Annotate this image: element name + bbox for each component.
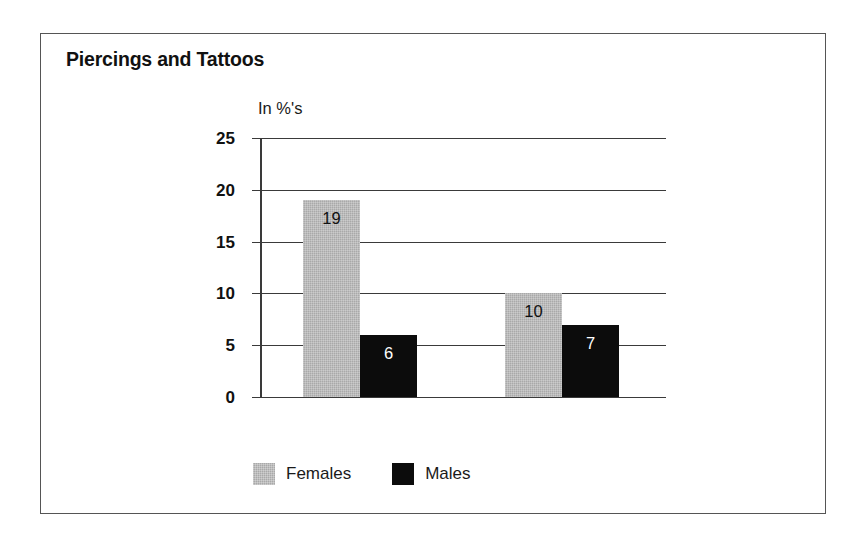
tick-mark-10: 10 — [252, 293, 260, 294]
legend-swatch-males-icon — [392, 463, 414, 485]
legend-item-females[interactable]: Females — [253, 463, 351, 485]
y-axis-unit-caption: In %'s — [258, 99, 302, 118]
gridline-20 — [260, 190, 666, 191]
y-tick-label-25: 25 — [216, 129, 235, 149]
page-title: Piercings and Tattoos — [66, 48, 264, 71]
bar-tattoos-males[interactable]: 7 — [562, 325, 619, 398]
gridline-25 — [260, 138, 666, 139]
tick-mark-5: 5 — [252, 345, 260, 346]
y-tick-label-5: 5 — [226, 336, 235, 356]
plot-area: 25 20 15 10 5 0 19 6 10 — [260, 138, 666, 397]
chart-figure: Piercings and Tattoos In %'s 25 20 15 10… — [0, 0, 861, 545]
legend-label-females: Females — [286, 464, 351, 484]
legend-item-males[interactable]: Males — [392, 463, 470, 485]
bar-value-tattoos-females: 10 — [505, 302, 562, 321]
tick-mark-15: 15 — [252, 242, 260, 243]
bar-value-piercings-females: 19 — [303, 209, 360, 228]
x-axis-line — [252, 397, 666, 398]
legend-label-males: Males — [425, 464, 470, 484]
bar-value-tattoos-males: 7 — [562, 334, 619, 353]
y-axis-line — [260, 138, 262, 397]
chart-legend: Females Males — [253, 463, 471, 485]
bar-value-piercings-males: 6 — [360, 344, 417, 363]
bar-tattoos-females[interactable]: 10 — [505, 293, 562, 397]
bar-piercings-males[interactable]: 6 — [360, 335, 417, 397]
bar-piercings-females[interactable]: 19 — [303, 200, 360, 397]
tick-mark-20: 20 — [252, 190, 260, 191]
y-tick-label-0: 0 — [226, 388, 235, 408]
y-tick-label-15: 15 — [216, 232, 235, 252]
y-tick-label-20: 20 — [216, 180, 235, 200]
tick-mark-25: 25 — [252, 138, 260, 139]
legend-swatch-females-icon — [253, 463, 275, 485]
y-tick-label-10: 10 — [216, 284, 235, 304]
